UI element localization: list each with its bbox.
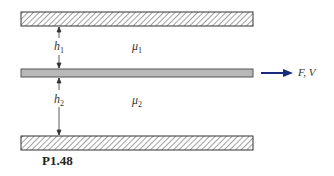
mu2-label: μ2	[132, 93, 142, 109]
h1-label: h1	[54, 39, 64, 55]
force-velocity-label: F, V	[298, 66, 316, 78]
figure-label: P1.48	[42, 153, 73, 169]
top-wall	[21, 12, 253, 26]
h2-label: h2	[54, 92, 64, 108]
force-arrow	[261, 69, 293, 77]
moving-plate	[21, 69, 253, 77]
mu1-label: μ1	[132, 39, 142, 55]
diagram-canvas	[0, 0, 334, 176]
bottom-wall	[21, 136, 253, 150]
